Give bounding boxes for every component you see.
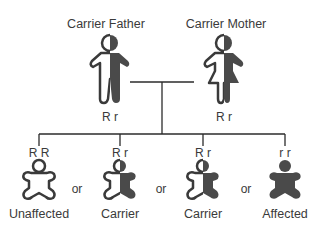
child-genotype-2: R r — [112, 147, 128, 159]
child-label-affected: Affected — [262, 208, 308, 221]
father-figure — [91, 35, 130, 103]
pedigree-diagram — [0, 0, 319, 232]
father-genotype: R r — [102, 111, 118, 123]
child-genotype-4: r r — [279, 147, 290, 159]
or-separator-2: or — [156, 183, 167, 195]
or-separator-3: or — [241, 183, 252, 195]
child-genotype-3: R r — [195, 147, 211, 159]
mother-figure — [205, 35, 244, 103]
child-label-unaffected: Unaffected — [9, 208, 69, 221]
mother-genotype: R r — [216, 111, 232, 123]
child-genotype-1: R R — [29, 147, 50, 159]
child-unaffected-figure — [23, 160, 54, 199]
mother-label: Carrier Mother — [186, 18, 267, 31]
child-affected-figure — [269, 160, 300, 199]
pedigree-lines — [39, 82, 285, 146]
child-label-carrier-1: Carrier — [101, 208, 139, 221]
father-label: Carrier Father — [67, 18, 145, 31]
child-carrier-figure-2 — [187, 160, 218, 199]
child-carrier-figure-1 — [104, 160, 135, 199]
or-separator-1: or — [72, 183, 83, 195]
child-label-carrier-2: Carrier — [184, 208, 222, 221]
